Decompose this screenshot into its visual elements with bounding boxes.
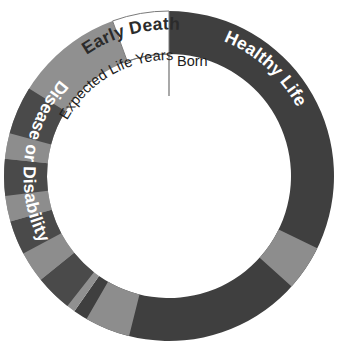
chart-canvas: Healthy LifeDisease or DisabilityEarly D…	[0, 0, 338, 354]
life-expectancy-donut-chart: Healthy LifeDisease or DisabilityEarly D…	[0, 0, 338, 354]
annotation-born: Born	[177, 53, 208, 69]
